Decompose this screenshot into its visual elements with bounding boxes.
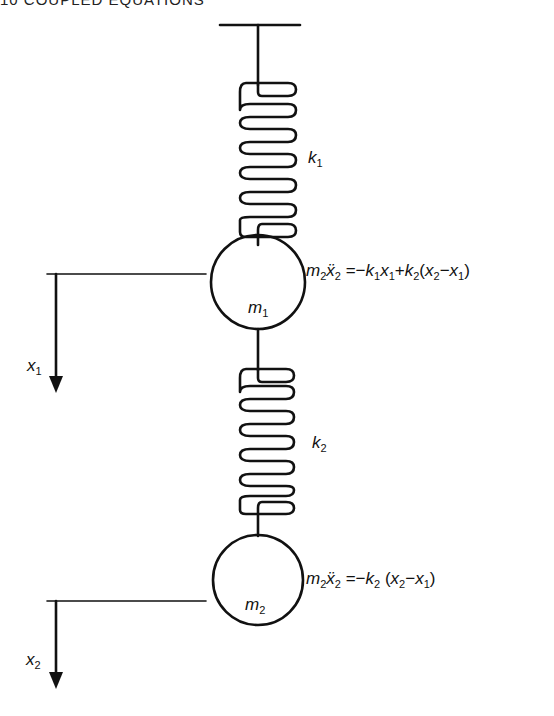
spring-k2: [240, 369, 294, 514]
spring-k1-label: k1: [308, 148, 323, 169]
x1-label: x1: [27, 356, 42, 377]
spring-k2-label: k2: [312, 433, 327, 454]
spring-k1: [240, 83, 296, 237]
equation-mass1: m2ẍ2 =−k1x1+k2(x2−x1): [306, 261, 470, 282]
mass-m2-label: m2: [245, 595, 265, 616]
x2-label: x2: [26, 650, 41, 671]
equation-mass2: m2ẍ2 =−k2 (x2−x1): [306, 569, 435, 590]
x2-arrowhead-icon: [49, 672, 63, 689]
spring-mass-diagram: [0, 0, 554, 716]
mass-m1-label: m1: [248, 298, 268, 319]
x1-arrowhead-icon: [49, 376, 63, 393]
